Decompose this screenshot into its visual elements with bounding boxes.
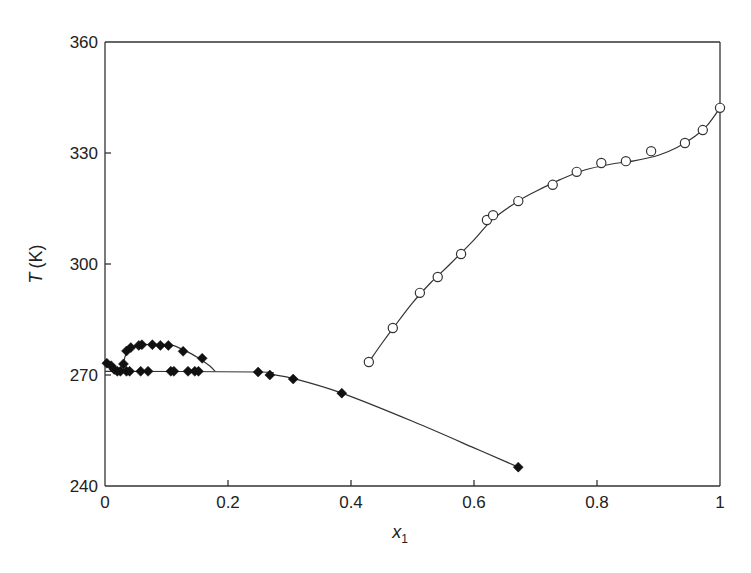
y-axis-label-var: T [26, 271, 46, 284]
diamond-data-point [337, 388, 347, 398]
circle-data-point [415, 288, 424, 297]
diamond-lower-curve [105, 371, 518, 467]
circle-data-point [388, 323, 397, 332]
x-tick-label: 0.2 [216, 493, 240, 512]
y-tick-label: 240 [70, 477, 98, 496]
y-axis-label: T(K) [26, 245, 46, 284]
circle-data-point [572, 167, 581, 176]
circle-series-fit-curve [369, 108, 720, 362]
circle-data-point [548, 180, 557, 189]
y-tick-label: 360 [70, 33, 98, 52]
x-tick-label: 0.6 [462, 493, 486, 512]
circle-data-point [621, 157, 630, 166]
x-axis-label: x1 [391, 522, 408, 546]
y-tick-label: 330 [70, 144, 98, 163]
diamond-data-point [513, 462, 523, 472]
circle-data-point [715, 103, 724, 112]
y-axis-label-unit: (K) [26, 245, 46, 269]
x-tick-label: 0.4 [339, 493, 363, 512]
diamond-data-point [288, 374, 298, 384]
circle-data-point [680, 138, 689, 147]
phase-diagram-chart: 00.20.40.60.81 240270300330360 x1 T(K) [0, 0, 751, 573]
diamond-data-point [143, 366, 153, 376]
diamond-data-point [253, 367, 263, 377]
circle-data-point [364, 357, 373, 366]
diamond-data-point [265, 370, 275, 380]
diamond-data-point [163, 340, 173, 350]
x-tick-label: 1 [715, 493, 724, 512]
x-axis-ticks: 00.20.40.60.81 [100, 480, 724, 512]
data-markers [102, 103, 725, 472]
x-tick-label: 0 [100, 493, 109, 512]
circle-data-point [514, 197, 523, 206]
circle-data-point [433, 272, 442, 281]
x-tick-label: 0.8 [585, 493, 609, 512]
circle-data-point [698, 125, 707, 134]
circle-data-point [456, 249, 465, 258]
circle-data-point [647, 147, 656, 156]
diamond-data-point [197, 353, 207, 363]
y-tick-label: 300 [70, 255, 98, 274]
circle-data-point [488, 211, 497, 220]
x-axis-label-subscript: 1 [401, 532, 408, 546]
plot-frame [105, 42, 720, 486]
y-tick-label: 270 [70, 366, 98, 385]
circle-data-point [597, 158, 606, 167]
